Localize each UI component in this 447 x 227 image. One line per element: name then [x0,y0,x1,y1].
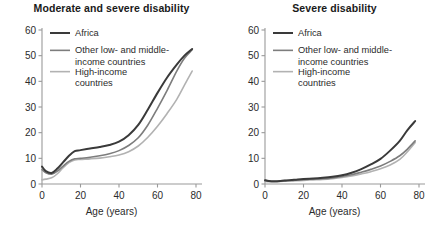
x-tick-label: 60 [152,190,164,201]
y-tick-label: 50 [248,50,260,61]
legend-label-2-line2: income countries [75,57,146,67]
y-tick-label: 60 [248,25,260,36]
legend-label-3: High-income [75,67,127,77]
x-tick-label: 20 [75,190,87,201]
legend-label-3-line2: countries [298,78,336,88]
y-tick-label: 10 [25,153,37,164]
plot-area-right: 0102030405060020406080AfricaOther low- a… [223,0,446,227]
y-tick-label: 20 [25,127,37,138]
figure-two-panel-line-charts: Moderate and severe disability Prevalenc… [0,0,447,227]
legend-label-2-line2: income countries [298,57,369,67]
y-tick-label: 0 [30,179,36,190]
y-tick-label: 30 [248,102,260,113]
x-tick-label: 0 [262,190,268,201]
y-tick-label: 40 [248,76,260,87]
x-tick-label: 80 [413,190,425,201]
x-tick-label: 60 [375,190,387,201]
y-tick-label: 0 [253,179,259,190]
legend-label-3-line2: countries [75,78,113,88]
y-tick-label: 30 [25,102,37,113]
y-tick-label: 40 [25,76,37,87]
x-tick-label: 80 [190,190,202,201]
series-line [265,121,415,181]
legend-label-1: Africa [75,28,100,38]
y-tick-label: 60 [25,25,37,36]
y-tick-label: 10 [248,153,260,164]
y-tick-label: 20 [248,127,260,138]
x-tick-label: 40 [113,190,125,201]
legend-label-3: High-income [298,67,350,77]
x-tick-label: 0 [39,190,45,201]
legend-label-2: Other low- and middle- [75,45,169,55]
legend-label-1: Africa [298,28,323,38]
legend-label-2: Other low- and middle- [298,45,392,55]
panel-severe-disability: Severe disability Prevalence (%) Age (ye… [223,0,446,227]
x-tick-label: 40 [336,190,348,201]
plot-area-left: 0102030405060020406080AfricaOther low- a… [0,0,223,227]
series-line [42,71,192,180]
panel-moderate-and-severe-disability: Moderate and severe disability Prevalenc… [0,0,223,227]
y-tick-label: 50 [25,50,37,61]
x-tick-label: 20 [298,190,310,201]
